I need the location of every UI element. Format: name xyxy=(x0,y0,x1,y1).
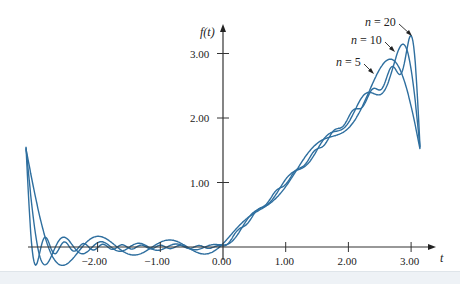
y-axis-arrow-icon xyxy=(220,24,226,32)
bottom-band xyxy=(0,271,460,284)
x-tick-label: 2.00 xyxy=(337,255,357,267)
x-tick-label: 1.00 xyxy=(275,255,295,267)
x-axis-label: t xyxy=(440,251,444,265)
x-tick-label: 0.00 xyxy=(212,255,232,267)
x-tick-label: −2.00 xyxy=(82,255,108,267)
x-tick-label: −1.00 xyxy=(144,255,170,267)
y-tick-label: 1.00 xyxy=(190,177,210,189)
x-axis-arrow-icon xyxy=(428,244,436,250)
y-tick-label: 3.00 xyxy=(190,48,210,60)
annotation-n10: n = 10 xyxy=(351,33,382,47)
y-tick-label: 2.00 xyxy=(190,112,210,124)
annotation-n5: n = 5 xyxy=(336,55,361,69)
y-axis-label: f(t) xyxy=(200,25,215,39)
x-tick-label: 3.00 xyxy=(400,255,420,267)
annotation-n20: n = 20 xyxy=(365,15,396,29)
fourier-chart: −2.00−1.000.001.002.003.00 1.002.003.00 … xyxy=(0,0,460,284)
